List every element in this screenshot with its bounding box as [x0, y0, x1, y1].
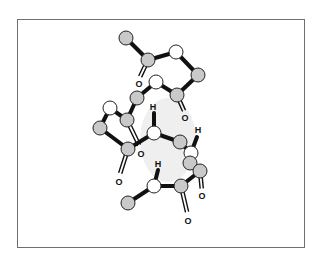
nitrogen-atom: [103, 101, 117, 115]
carbon-atom: [191, 68, 205, 82]
hydrogen-label: H: [155, 159, 162, 169]
carbon-atom: [93, 121, 107, 135]
oxygen-label: O: [137, 149, 144, 159]
carbon-atom: [119, 31, 133, 45]
carbon-atom: [193, 164, 207, 178]
carbon-atom: [141, 53, 155, 67]
nitrogen-atom: [147, 126, 161, 140]
carbon-atom: [173, 135, 187, 149]
oxygen-label: O: [181, 113, 188, 123]
carbon-atom: [130, 91, 144, 105]
carbon-atom: [170, 88, 184, 102]
carbon-atom: [120, 113, 134, 127]
oxygen-label: O: [198, 191, 205, 201]
oxygen-label: O: [115, 177, 122, 187]
oxygen-label: O: [135, 79, 142, 89]
oxygen-label: O: [184, 216, 191, 226]
hydrogen-label: H: [195, 125, 202, 135]
carbon-atom: [121, 142, 135, 156]
hydrogen-label: H: [150, 102, 157, 112]
carbon-atom: [121, 196, 135, 210]
nitrogen-atom: [149, 75, 163, 89]
nitrogen-atom: [147, 179, 161, 193]
molecule-diagram: OOOOOOHHH: [0, 0, 320, 262]
carbon-atom: [174, 179, 188, 193]
nitrogen-atom: [169, 45, 183, 59]
